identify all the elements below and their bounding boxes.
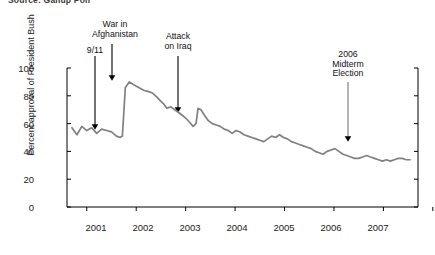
annotation-arrows	[95, 44, 348, 139]
chart-figure: Source: Gallup Poll Percent approval of …	[0, 0, 435, 255]
axis-ticks	[67, 68, 433, 211]
approval-rating-line	[72, 82, 410, 161]
chart-plot-svg	[0, 0, 435, 255]
